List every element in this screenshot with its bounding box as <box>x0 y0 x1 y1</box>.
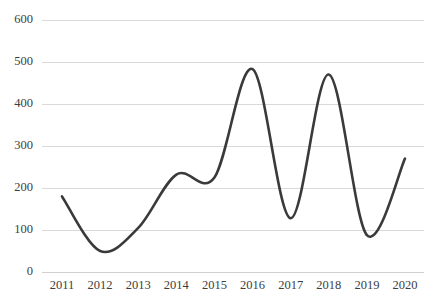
y-axis-tick-label: 100 <box>14 222 33 236</box>
x-axis-tick-label: 2012 <box>88 278 113 292</box>
y-axis-tick-label: 0 <box>27 264 33 278</box>
data-series-line <box>62 69 405 252</box>
y-axis-tick-label: 600 <box>14 12 33 26</box>
x-axis-tick-labels: 2011201220132014201520162017201820192020 <box>50 278 418 292</box>
x-axis-tick-label: 2014 <box>164 278 190 292</box>
line-chart: 0100200300400500600 20112012201320142015… <box>0 0 433 305</box>
x-axis-tick-label: 2020 <box>393 278 418 292</box>
x-axis-tick-label: 2013 <box>126 278 151 292</box>
chart-plot-area: 0100200300400500600 20112012201320142015… <box>0 0 433 305</box>
x-axis-tick-label: 2017 <box>278 278 303 292</box>
y-axis-tick-label: 500 <box>14 54 33 68</box>
y-axis-tick-label: 200 <box>14 180 33 194</box>
x-axis-tick-label: 2016 <box>240 278 265 292</box>
y-axis-tick-labels: 0100200300400500600 <box>14 12 33 278</box>
x-axis-tick-label: 2018 <box>316 278 341 292</box>
y-axis-tick-label: 400 <box>14 96 33 110</box>
x-axis-tick-label: 2011 <box>50 278 75 292</box>
y-axis-tick-label: 300 <box>14 138 33 152</box>
x-axis-tick-label: 2015 <box>202 278 227 292</box>
x-axis-tick-label: 2019 <box>354 278 379 292</box>
